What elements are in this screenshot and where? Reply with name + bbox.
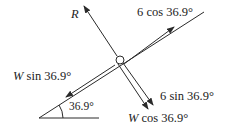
normal-force-arrow xyxy=(84,6,117,56)
weight-parallel-rest: sin 36.9° xyxy=(23,69,71,83)
weight-var: W xyxy=(128,111,138,125)
applied-parallel-arrow xyxy=(124,27,174,64)
diagram-graphics xyxy=(0,0,225,131)
weight-perp-arrow xyxy=(118,64,148,109)
angle-arc xyxy=(59,105,63,118)
label-angle: 36.9° xyxy=(69,101,94,113)
label-applied-perp: 6 sin 36.9° xyxy=(160,90,214,103)
weight-var: W xyxy=(13,69,23,83)
label-applied-parallel: 6 cos 36.9° xyxy=(137,6,193,19)
label-weight-parallel: W sin 36.9° xyxy=(13,70,71,83)
label-normal-force: R xyxy=(71,8,79,21)
weight-parallel-arrow xyxy=(66,65,115,97)
weight-perp-rest: cos 36.9° xyxy=(138,111,188,125)
applied-perp-arrow xyxy=(123,63,153,105)
free-body-diagram: R 6 cos 36.9° W sin 36.9° 36.9° 6 sin 36… xyxy=(0,0,225,131)
label-weight-perp: W cos 36.9° xyxy=(128,112,188,125)
particle xyxy=(116,56,124,64)
